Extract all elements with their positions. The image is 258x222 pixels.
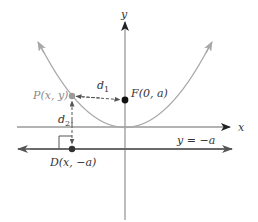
d2-label: d2: [58, 113, 70, 128]
parabola-left-arrow-icon: [38, 42, 44, 53]
point-d-label: D(x, −a): [49, 156, 96, 169]
parabola-right-arrow-icon: [206, 42, 212, 53]
y-axis-label: y: [120, 8, 128, 21]
point-focus: [122, 97, 129, 104]
point-d: [69, 146, 75, 152]
parabola-diagram: y x F(0, a) P(x, y) D(x, −a) y = −a d1 d…: [0, 0, 258, 222]
d1-label: d1: [97, 79, 109, 94]
point-p: [69, 93, 75, 99]
x-axis-label: x: [238, 121, 245, 134]
point-p-label: P(x, y): [32, 89, 68, 102]
focus-label: F(0, a): [130, 87, 168, 100]
directrix-label: y = −a: [176, 134, 215, 147]
diagram-canvas: y x F(0, a) P(x, y) D(x, −a) y = −a d1 d…: [0, 0, 258, 222]
